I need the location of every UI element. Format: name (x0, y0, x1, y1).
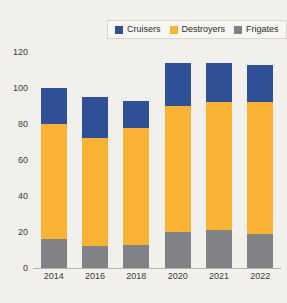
x-axis-tick-label: 2018 (116, 272, 156, 281)
bar-group-2016[interactable] (82, 52, 108, 268)
stacked-bar[interactable] (247, 65, 273, 268)
chart-legend: CruisersDestroyersFrigates (107, 20, 287, 39)
bar-group-2018[interactable] (123, 52, 149, 268)
bar-segment-frigates[interactable] (41, 239, 67, 268)
legend-item-label: Destroyers (182, 25, 226, 34)
bar-group-2021[interactable] (206, 52, 232, 268)
y-axis-tick-label: 80 (0, 120, 28, 129)
x-axis-tick-label: 2022 (240, 272, 280, 281)
bar-segment-frigates[interactable] (165, 232, 191, 268)
y-axis-tick-label: 100 (0, 84, 28, 93)
legend-swatch-icon (170, 26, 178, 34)
stacked-bar[interactable] (82, 97, 108, 268)
bar-segment-frigates[interactable] (206, 230, 232, 268)
stacked-bar-chart: CruisersDestroyersFrigates 0204060801001… (0, 0, 287, 303)
y-axis-tick-label: 40 (0, 192, 28, 201)
legend-swatch-icon (115, 26, 123, 34)
y-axis-tick-label: 20 (0, 228, 28, 237)
legend-item-label: Cruisers (127, 25, 161, 34)
bar-segment-destroyers[interactable] (165, 106, 191, 232)
bar-group-2014[interactable] (41, 52, 67, 268)
bar-segment-cruisers[interactable] (206, 63, 232, 103)
x-axis-tick-label: 2020 (158, 272, 198, 281)
stacked-bar[interactable] (123, 101, 149, 268)
bar-group-2022[interactable] (247, 52, 273, 268)
bar-segment-cruisers[interactable] (165, 63, 191, 106)
y-axis: 020406080100120 (0, 52, 28, 268)
x-axis: 201420162018202020212022 (33, 272, 281, 288)
legend-item-frigates[interactable]: Frigates (234, 25, 279, 34)
y-axis-tick-label: 120 (0, 48, 28, 57)
bar-segment-cruisers[interactable] (82, 97, 108, 138)
stacked-bar[interactable] (206, 63, 232, 268)
bar-segment-destroyers[interactable] (247, 102, 273, 233)
bar-segment-destroyers[interactable] (123, 128, 149, 245)
bar-group-2020[interactable] (165, 52, 191, 268)
x-axis-tick-label: 2014 (34, 272, 74, 281)
bar-segment-frigates[interactable] (82, 246, 108, 268)
stacked-bar[interactable] (41, 88, 67, 268)
x-axis-tick-label: 2021 (199, 272, 239, 281)
bar-segment-frigates[interactable] (247, 234, 273, 268)
bar-segment-cruisers[interactable] (247, 65, 273, 103)
bar-segment-cruisers[interactable] (41, 88, 67, 124)
y-axis-tick-label: 60 (0, 156, 28, 165)
legend-item-cruisers[interactable]: Cruisers (115, 25, 161, 34)
bar-segment-destroyers[interactable] (206, 102, 232, 230)
legend-swatch-icon (234, 26, 242, 34)
legend-item-destroyers[interactable]: Destroyers (170, 25, 226, 34)
axis-baseline (33, 268, 281, 269)
bar-segment-cruisers[interactable] (123, 101, 149, 128)
legend-item-label: Frigates (246, 25, 279, 34)
plot-area (33, 52, 281, 268)
x-axis-tick-label: 2016 (75, 272, 115, 281)
stacked-bar[interactable] (165, 63, 191, 268)
bar-segment-destroyers[interactable] (82, 138, 108, 246)
bar-segment-frigates[interactable] (123, 245, 149, 268)
y-axis-tick-label: 0 (0, 264, 28, 273)
bar-segment-destroyers[interactable] (41, 124, 67, 239)
